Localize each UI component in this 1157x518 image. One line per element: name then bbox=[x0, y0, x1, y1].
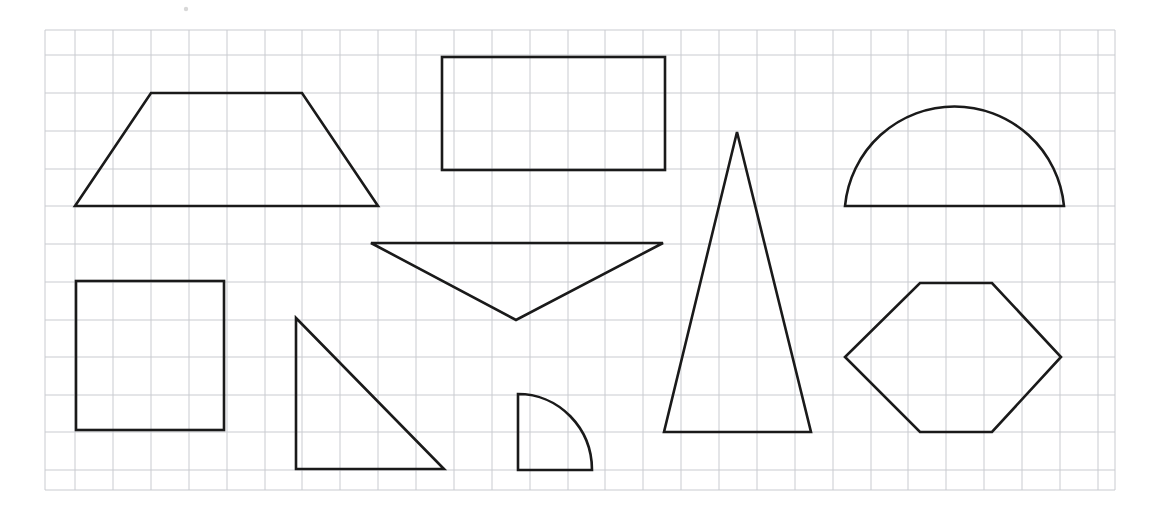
paper-background bbox=[0, 0, 1157, 518]
paper-marks-layer bbox=[184, 7, 188, 11]
worksheet-canvas bbox=[0, 0, 1157, 518]
paper-speck bbox=[184, 7, 188, 11]
shapes-scene bbox=[0, 0, 1157, 518]
